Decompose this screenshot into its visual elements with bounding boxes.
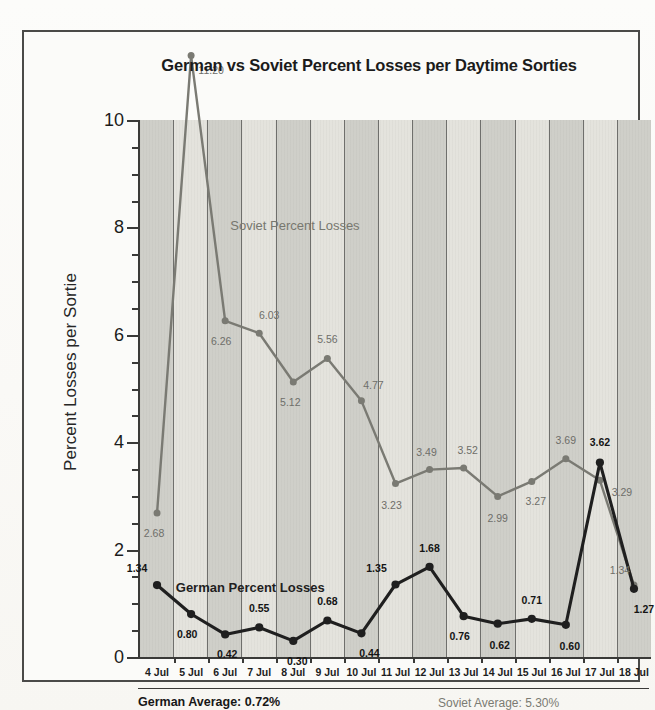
x-tick-3 <box>242 657 244 663</box>
line-german <box>157 463 634 641</box>
x-tick-8 <box>413 657 415 663</box>
point-german-14 <box>630 585 638 593</box>
y-tick-6.5 <box>132 308 140 310</box>
x-axis-label-9-jul: 9 Jul <box>315 666 339 678</box>
y-tick-0 <box>127 657 140 659</box>
point-german-1 <box>187 610 195 618</box>
y-axis-label-8: 8 <box>114 217 124 238</box>
y-tick-1 <box>132 603 140 605</box>
x-tick-10 <box>481 657 483 663</box>
y-tick-7 <box>132 281 140 283</box>
y-tick-9 <box>132 174 140 176</box>
x-axis-label-13-jul: 13 Jul <box>449 666 479 678</box>
y-tick-8.5 <box>132 201 140 203</box>
y-axis-label-2: 2 <box>114 539 124 560</box>
y-tick-8 <box>127 227 140 229</box>
point-german-2 <box>221 630 229 638</box>
x-tick-2 <box>208 657 210 663</box>
x-tick-5 <box>310 657 312 663</box>
point-german-7 <box>391 580 399 588</box>
y-tick-4 <box>127 442 140 444</box>
x-axis-label-7-jul: 7 Jul <box>247 666 271 678</box>
x-axis-label-8-jul: 8 Jul <box>281 666 305 678</box>
point-german-0 <box>153 581 161 589</box>
y-axis-label-6: 6 <box>114 324 124 345</box>
chart-title: German vs Soviet Percent Losses per Dayt… <box>114 56 624 75</box>
y-tick-3.5 <box>132 469 140 471</box>
y-tick-2 <box>127 550 140 552</box>
x-tick-7 <box>378 657 380 663</box>
x-axis-label-15-jul: 15 Jul <box>517 666 547 678</box>
y-axis-label-4: 4 <box>114 432 124 453</box>
point-german-11 <box>528 615 536 623</box>
point-soviet-8 <box>426 466 433 473</box>
y-tick-4.5 <box>132 415 140 417</box>
y-tick-9.5 <box>132 147 140 149</box>
x-tick-12 <box>549 657 551 663</box>
x-axis-label-6-jul: 6 Jul <box>213 666 237 678</box>
x-tick-14 <box>617 657 619 663</box>
y-tick-6 <box>127 335 140 337</box>
point-soviet-11 <box>528 478 535 485</box>
y-tick-2.5 <box>132 523 140 525</box>
point-soviet-5 <box>324 355 331 362</box>
point-soviet-10 <box>494 493 501 500</box>
x-axis-label-17-jul: 17 Jul <box>585 666 615 678</box>
point-german-5 <box>323 616 331 624</box>
y-axis-label-0: 0 <box>114 647 124 668</box>
point-soviet-12 <box>562 455 569 462</box>
series-annotation-soviet: Soviet Percent Losses <box>230 217 359 232</box>
x-axis-label-11-jul: 11 Jul <box>381 666 410 678</box>
x-axis-label-4-jul: 4 Jul <box>145 666 169 678</box>
point-german-8 <box>425 563 433 571</box>
x-axis-label-16-jul: 16 Jul <box>551 666 581 678</box>
y-tick-10 <box>127 120 140 122</box>
x-axis-label-5-jul: 5 Jul <box>179 666 203 678</box>
point-german-10 <box>494 620 502 628</box>
point-soviet-6 <box>358 397 365 404</box>
point-soviet-0 <box>154 510 161 517</box>
y-axis-title: Percent Losses per Sortie <box>61 207 81 537</box>
x-tick-4 <box>276 657 278 663</box>
point-german-6 <box>357 629 365 637</box>
footer-divider <box>138 688 649 689</box>
point-german-3 <box>255 623 263 631</box>
y-axis-label-10: 10 <box>104 110 124 131</box>
x-axis-label-12-jul: 12 Jul <box>415 666 445 678</box>
y-tick-1.5 <box>132 576 140 578</box>
y-tick-5.5 <box>132 362 140 364</box>
point-german-12 <box>562 621 570 629</box>
german-average-text: German Average: 0.72% <box>138 695 280 709</box>
point-soviet-7 <box>392 480 399 487</box>
x-tick-9 <box>447 657 449 663</box>
point-soviet-4 <box>290 379 297 386</box>
point-soviet-3 <box>256 330 263 337</box>
point-soviet-9 <box>460 464 467 471</box>
y-tick-0.5 <box>132 630 140 632</box>
y-tick-3 <box>132 496 140 498</box>
point-german-4 <box>289 637 297 645</box>
x-tick-13 <box>583 657 585 663</box>
footer-averages: German Average: 0.72% Soviet Average: 5.… <box>138 695 649 710</box>
point-soviet-2 <box>222 317 229 324</box>
point-german-13 <box>596 459 604 467</box>
x-axis-label-10-jul: 10 Jul <box>347 666 377 678</box>
x-tick-1 <box>174 657 176 663</box>
series-annotation-german: German Percent Losses <box>176 580 325 595</box>
y-tick-5 <box>132 389 140 391</box>
chart-frame: Percent Losses per Sortie 02468104 Jul5 … <box>22 30 640 682</box>
y-tick-7.5 <box>132 254 140 256</box>
soviet-average-text: Soviet Average: 5.30% <box>438 696 559 710</box>
x-tick-6 <box>344 657 346 663</box>
x-axis-label-18-jul: 18 Jul <box>619 666 649 678</box>
point-german-9 <box>460 612 468 620</box>
x-tick-11 <box>515 657 517 663</box>
series-lines <box>140 120 651 657</box>
plot-area: 02468104 Jul5 Jul6 Jul7 Jul8 Jul9 Jul10 … <box>138 120 651 659</box>
x-axis-label-14-jul: 14 Jul <box>483 666 513 678</box>
